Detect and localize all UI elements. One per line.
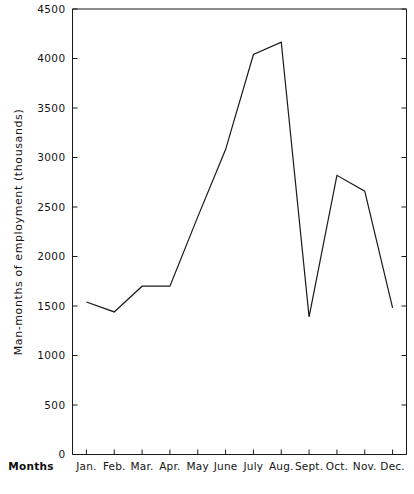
- y-tick-label: 0: [58, 448, 65, 460]
- x-tick-label-aug: Aug.: [269, 460, 294, 472]
- x-tick-label-feb: Feb.: [103, 460, 126, 472]
- x-axis-tick-labels: Jan.Feb.Mar.Apr.MayJuneJulyAug.Sept.Oct.…: [75, 460, 405, 472]
- y-tick-label: 4000: [37, 52, 65, 64]
- x-tick-label-oct: Oct.: [326, 460, 348, 472]
- y-tick-label: 4500: [37, 3, 65, 15]
- x-tick-label-mar: Mar.: [131, 460, 154, 472]
- axes-frame: [73, 9, 407, 455]
- y-tick-label: 2500: [37, 201, 65, 213]
- x-axis-title: Months: [8, 460, 54, 472]
- chart-container: 050010001500200025003000350040004500 Jan…: [0, 0, 414, 494]
- y-axis-ticks: [73, 9, 407, 455]
- y-tick-label: 3500: [37, 102, 65, 114]
- y-tick-label: 3000: [37, 151, 65, 163]
- x-tick-label-dec: Dec.: [380, 460, 404, 472]
- x-tick-label-july: July: [243, 460, 264, 472]
- x-tick-label-apr: Apr.: [159, 460, 180, 472]
- y-tick-label: 500: [44, 399, 65, 411]
- x-axis-ticks: [86, 450, 392, 455]
- x-tick-label-sept: Sept.: [295, 460, 323, 472]
- y-tick-label: 1000: [37, 349, 65, 361]
- line-chart-plot: 050010001500200025003000350040004500 Jan…: [0, 0, 414, 494]
- x-tick-label-may: May: [187, 460, 209, 472]
- y-axis-tick-labels: 050010001500200025003000350040004500: [37, 3, 65, 461]
- y-axis-title: Man-months of employment (thousands): [12, 109, 25, 356]
- x-tick-label-june: June: [213, 460, 238, 472]
- x-tick-label-nov: Nov.: [353, 460, 377, 472]
- y-tick-label: 2000: [37, 250, 65, 262]
- y-tick-label: 1500: [37, 300, 65, 312]
- x-tick-label-jan: Jan.: [75, 460, 96, 472]
- data-series-line: [86, 42, 392, 317]
